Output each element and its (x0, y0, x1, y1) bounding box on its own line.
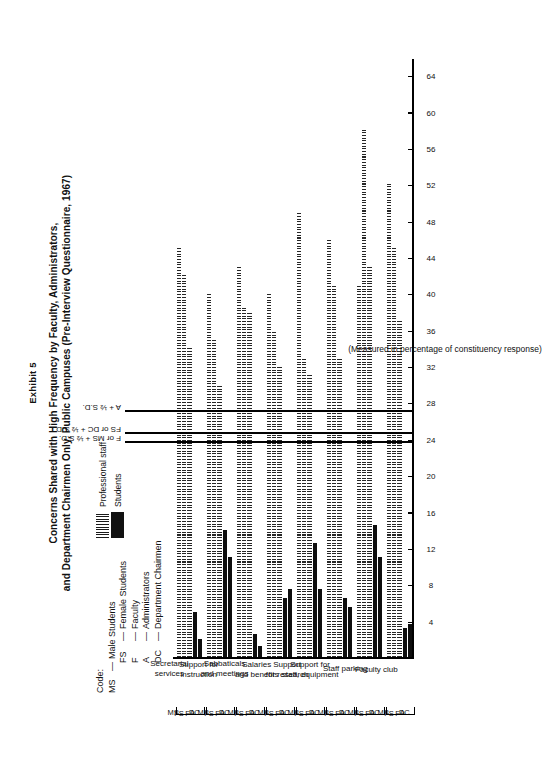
bar-dc (387, 184, 391, 657)
bar-a (212, 339, 216, 657)
value-tick-label: 52 (427, 182, 436, 190)
legend-label: Professional staff (98, 442, 108, 507)
exhibit-label: Exhibit 5 (27, 33, 38, 733)
rotated-figure-wrapper: Exhibit 5 Concerns Shared with High Freq… (21, 33, 451, 733)
bar-f (337, 357, 341, 657)
bar-dc (237, 266, 241, 657)
reference-line-label: FS or DC + ½ S.D. (54, 425, 121, 433)
value-tick-label: 48 (427, 219, 436, 227)
code-key-entry: MS—Male Students (107, 540, 119, 693)
code-key-dash: — (107, 659, 119, 671)
code-key-meaning: Female Students (118, 561, 128, 629)
bar-fs (283, 598, 287, 657)
category-brace (386, 707, 415, 715)
reference-line (125, 410, 413, 411)
value-tick (408, 331, 414, 332)
exhibit-figure: Exhibit 5 Concerns Shared with High Freq… (21, 33, 451, 733)
code-key-dash: — (130, 629, 142, 641)
bar-dc (177, 248, 181, 657)
bar-ms (258, 646, 262, 657)
reference-line (125, 441, 413, 442)
legend-swatch-students (111, 512, 124, 538)
bar-f (397, 321, 401, 657)
value-tick-label: 32 (427, 364, 436, 372)
code-key-meaning: Male Students (107, 601, 117, 659)
value-tick-label: 36 (427, 328, 436, 336)
reference-line-label: F or MS + ½ S.D. (59, 434, 121, 442)
bar-a (272, 330, 276, 657)
bar-dc (267, 293, 271, 657)
value-tick-label: 16 (427, 510, 436, 518)
bar-f (247, 312, 251, 657)
bar-fs (193, 612, 197, 657)
plot-area: MSFSFADCSecretarialservicesMSFSFADCSuppo… (173, 59, 413, 659)
value-tick (408, 222, 414, 223)
value-tick (408, 585, 414, 586)
category-label-line: Faculty club (355, 664, 398, 673)
bar-dc (327, 239, 331, 657)
code-key-dash: — (141, 629, 153, 641)
code-key-abbr: MS (107, 671, 119, 693)
value-tick-label: 24 (427, 437, 436, 445)
value-tick-label: 4 (429, 619, 433, 627)
chart-title-line1: Concerns Shared with High Frequency by F… (47, 33, 60, 733)
value-tick (408, 403, 414, 404)
value-tick-label: 28 (427, 400, 436, 408)
value-tick (408, 185, 414, 186)
bar-fs (343, 598, 347, 657)
category-group: MSFSFADCSabbaticalsand meetings (233, 59, 263, 659)
code-key-meaning: Department Chairmen (153, 540, 163, 629)
category-group: MSFSFADCSupportfor research (293, 59, 323, 659)
bar-f (367, 266, 371, 657)
bar-dc (207, 293, 211, 657)
bar-fs (373, 525, 377, 657)
bar-f (217, 384, 221, 657)
bar-fs (253, 634, 257, 657)
bar-a (302, 357, 306, 657)
category-group: MSFSFADCSupport forstaff, equipment (323, 59, 353, 659)
bar-dc (297, 212, 301, 657)
value-tick-label: 8 (429, 582, 433, 590)
value-tick-label: 40 (427, 291, 436, 299)
category-label: Faculty club (355, 664, 398, 674)
bar-fs (403, 628, 407, 657)
code-key-dash: — (153, 629, 165, 641)
value-tick-label: 60 (427, 110, 436, 118)
code-key-entry: FS—Female Students (118, 540, 130, 663)
code-key-entry: DC—Department Chairmen (153, 540, 165, 663)
category-group: MSFSFADCSalariesand benefits (263, 59, 293, 659)
category-group: MSFSFADCSecretarialservices (173, 59, 203, 659)
code-key-dash: — (118, 629, 130, 641)
bar-ms (408, 624, 412, 657)
value-tick-label: 64 (427, 73, 436, 81)
category-group: MSFSFADCStaff parking (353, 59, 383, 659)
bar-a (362, 130, 366, 657)
bar-a (392, 248, 396, 657)
code-key-entry: F—Faculty (130, 540, 142, 663)
legend-swatch-staff (96, 512, 109, 538)
value-tick (408, 512, 414, 513)
value-tick-label: 56 (427, 146, 436, 154)
value-tick-label: 44 (427, 255, 436, 263)
bar-ms (348, 607, 352, 657)
value-tick-label: 20 (427, 473, 436, 481)
bar-dc (357, 284, 361, 657)
value-axis-caption: (Measured in percentage of constituency … (325, 344, 546, 354)
value-tick (408, 258, 414, 259)
bar-ms (378, 557, 382, 657)
bar-fs (223, 530, 227, 657)
bar-fs (313, 543, 317, 657)
chart-title: Concerns Shared with High Frequency by F… (47, 33, 73, 733)
value-tick (408, 149, 414, 150)
bar-a (182, 275, 186, 657)
code-key-abbr: FS (118, 641, 130, 663)
value-tick (408, 76, 414, 77)
reference-line-label: A + ½ S.D. (83, 403, 121, 411)
value-tick (408, 294, 414, 295)
value-tick (408, 549, 414, 550)
code-key-entry: A—Administrators (141, 540, 153, 663)
code-key-heading: Code: (95, 663, 107, 693)
value-tick (408, 622, 414, 623)
reference-line (125, 432, 413, 433)
bar-a (242, 307, 246, 657)
